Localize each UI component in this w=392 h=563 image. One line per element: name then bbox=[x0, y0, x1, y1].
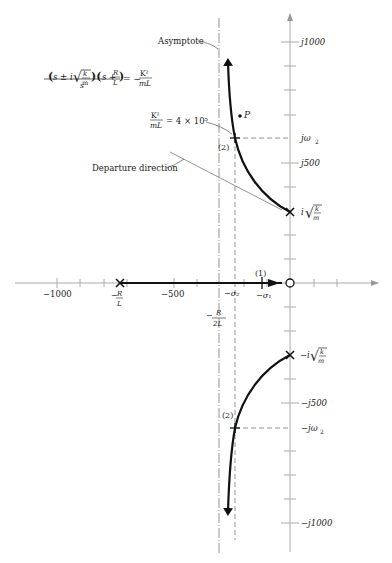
svg-text:)(: )( bbox=[91, 70, 101, 83]
svg-text:m: m bbox=[313, 214, 319, 222]
svg-text:k: k bbox=[83, 70, 87, 78]
departure-direction-line bbox=[170, 152, 282, 210]
multiplicity-lower: (2) bbox=[222, 411, 233, 420]
departure-direction-label: Departure direction bbox=[92, 163, 178, 173]
tick-label-neg-j1000: −j1000 bbox=[301, 518, 333, 528]
svg-text:K²: K² bbox=[140, 69, 149, 78]
breakaway-marker-upper bbox=[230, 133, 240, 143]
zero-origin bbox=[286, 279, 294, 287]
svg-text:−: − bbox=[206, 311, 213, 320]
multiplicity-real: (1) bbox=[255, 269, 266, 278]
characteristic-equation: ( s ± i √ k m )( s + R L ) s = − K² mL bbox=[44, 69, 152, 90]
svg-text:k: k bbox=[320, 348, 324, 356]
svg-text:jω: jω bbox=[299, 133, 311, 143]
svg-text:s ± i: s ± i bbox=[53, 72, 73, 82]
svg-text:mL: mL bbox=[150, 121, 162, 130]
svg-text:−jω: −jω bbox=[301, 423, 318, 433]
svg-text:L: L bbox=[116, 300, 122, 308]
point-P-label: P bbox=[243, 110, 251, 120]
root-locus-branches bbox=[120, 62, 290, 512]
tick-label-j1000: j1000 bbox=[299, 37, 326, 47]
label-pole-pos: i √ k m bbox=[301, 205, 322, 222]
asymptote-label: Asymptote bbox=[157, 36, 204, 46]
breakaway-marker-lower bbox=[230, 423, 240, 433]
svg-text:2L: 2L bbox=[212, 320, 222, 328]
svg-text:−i: −i bbox=[300, 350, 310, 360]
label-pole-neg: −i √ k m bbox=[300, 348, 327, 365]
label-neg-R-over-2L: − R 2L bbox=[206, 309, 226, 328]
label-neg-sigma2: −σ₂ bbox=[224, 289, 239, 298]
svg-text:i: i bbox=[301, 207, 304, 217]
tick-label-neg-jw2: −jω 2 bbox=[301, 423, 324, 435]
svg-text:k: k bbox=[315, 205, 319, 213]
svg-text:R: R bbox=[112, 69, 119, 77]
svg-text:mL: mL bbox=[139, 79, 151, 88]
tick-label-jw2: jω 2 bbox=[299, 133, 319, 145]
svg-text:K²: K² bbox=[151, 111, 160, 120]
svg-text:L: L bbox=[112, 79, 118, 87]
svg-text:2: 2 bbox=[315, 138, 319, 145]
root-locus-diagram: P ( s ± i √ k m )( s + R L ) s = − K² bbox=[0, 0, 392, 563]
multiplicity-upper: (2) bbox=[218, 143, 229, 152]
tick-label-neg1000: −1000 bbox=[43, 289, 72, 299]
svg-text:R: R bbox=[215, 309, 222, 317]
label-neg-R-over-L: − R L bbox=[111, 290, 123, 308]
point-P-marker bbox=[238, 114, 242, 118]
tick-label-neg500: −500 bbox=[161, 289, 184, 299]
svg-text:= 4 × 10⁵: = 4 × 10⁵ bbox=[166, 116, 209, 126]
svg-text:m: m bbox=[318, 357, 324, 365]
svg-text:R: R bbox=[116, 290, 123, 298]
tick-label-j500: j500 bbox=[299, 158, 320, 168]
label-neg-sigma1: −σ₁ bbox=[256, 291, 271, 300]
svg-text:s: s bbox=[80, 81, 84, 90]
svg-text:2: 2 bbox=[320, 428, 324, 435]
tick-label-neg-j500: −j500 bbox=[301, 398, 328, 408]
gain-annotation: K² mL = 4 × 10⁵ bbox=[150, 111, 232, 134]
